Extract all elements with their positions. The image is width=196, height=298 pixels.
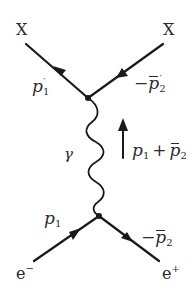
p2barprime-prime: ′ [160, 73, 162, 84]
momentum-arrow-head-icon [118, 118, 128, 131]
p2bar-base: p [155, 229, 166, 246]
sum-p1-sub: 1 [143, 150, 149, 161]
p1-base: p [44, 208, 55, 228]
momentum-photon-sum: p1+p2 [132, 142, 187, 161]
label-positron: e+ [162, 264, 180, 282]
sum-p1-base: p [132, 140, 143, 160]
label-x: X [16, 22, 27, 38]
gamma-symbol: γ [64, 145, 73, 163]
label-x-text: X [16, 20, 27, 39]
momentum-neg-p2bar: −p2 [141, 229, 173, 248]
sum-p2bar-sub: 2 [180, 150, 186, 161]
label-electron: e− [16, 264, 34, 282]
p1-sub: 1 [55, 218, 61, 229]
p2barprime-base: p [148, 75, 159, 92]
p1prime-sub: 1 [43, 86, 49, 97]
label-xbar: X [163, 22, 174, 38]
momentum-p1: p1 [44, 210, 61, 229]
p2bar-sub: 2 [166, 237, 172, 248]
sum-plus: + [152, 140, 166, 160]
momentum-p1-prime: p1′ [32, 77, 46, 97]
photon-propagator [86, 98, 103, 216]
photon-label-gamma: γ [64, 147, 73, 162]
p2bar-sign: − [141, 227, 155, 247]
p1prime-prime: ′ [43, 76, 45, 87]
electron-charge: − [25, 263, 33, 274]
bottom-vertex-dot [96, 213, 102, 219]
positron-charge: + [171, 263, 179, 274]
sum-p2bar-base: p [170, 142, 181, 159]
p1prime-base: p [32, 76, 43, 96]
arrowhead-electron-icon [69, 228, 81, 240]
momentum-neg-p2bar-prime: −p2′ [134, 74, 162, 94]
top-vertex-dot [85, 95, 91, 101]
p2barprime-sign: − [134, 73, 148, 93]
p2barprime-sub: 2 [159, 83, 165, 94]
label-xbar-text: X [163, 22, 174, 38]
